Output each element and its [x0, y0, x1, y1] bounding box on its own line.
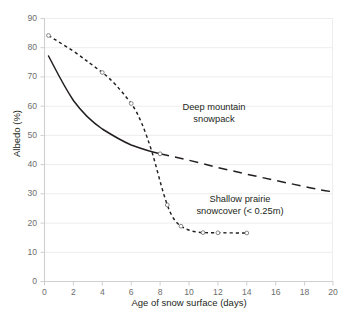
- y-tick-label: 80: [15, 42, 37, 52]
- annotation-deep-mountain-line1: Deep mountain: [168, 102, 260, 114]
- x-tick-label: 16: [265, 287, 287, 297]
- x-tick-label: 8: [149, 287, 171, 297]
- y-tick-label: 0: [15, 276, 37, 286]
- x-axis-title: Age of snow surface (days): [44, 297, 334, 308]
- y-tickmarks: [41, 19, 45, 282]
- annotation-deep-mountain: Deep mountain snowpack: [168, 102, 260, 125]
- annotation-shallow-prairie-line2: snowcover (< 0.25m): [180, 206, 300, 218]
- x-tick-label: 20: [322, 287, 344, 297]
- y-tick-label: 30: [15, 188, 37, 198]
- x-tick-label: 10: [178, 287, 200, 297]
- axis-lines: [44, 19, 333, 282]
- x-tick-label: 12: [207, 287, 229, 297]
- x-tick-label: 18: [294, 287, 316, 297]
- y-tick-label: 20: [15, 218, 37, 228]
- series-deep-mountain-solid: [49, 56, 161, 154]
- annotation-shallow-prairie: Shallow prairie snowcover (< 0.25m): [180, 194, 300, 217]
- series-deep-mountain-dashed: [160, 154, 333, 192]
- y-tick-label: 10: [15, 247, 37, 257]
- x-tick-label: 14: [236, 287, 258, 297]
- x-tick-label: 2: [62, 287, 84, 297]
- y-tick-label: 70: [15, 71, 37, 81]
- annotation-shallow-prairie-line1: Shallow prairie: [180, 194, 300, 206]
- x-tick-label: 4: [91, 287, 113, 297]
- y-tick-label: 90: [15, 13, 37, 23]
- x-tick-label: 0: [34, 287, 56, 297]
- x-tick-label: 6: [120, 287, 142, 297]
- annotation-deep-mountain-line2: snowpack: [168, 114, 260, 126]
- albedo-chart: 90 80 70 60 50 40 30 20 10 0 0 2 4 6 8 1…: [0, 0, 355, 321]
- chart-canvas: [0, 0, 355, 321]
- x-tickmarks: [45, 282, 334, 286]
- y-axis-title: Albedo (%): [11, 94, 22, 174]
- plot-frame: [44, 19, 333, 282]
- y-gridlines: [44, 19, 333, 253]
